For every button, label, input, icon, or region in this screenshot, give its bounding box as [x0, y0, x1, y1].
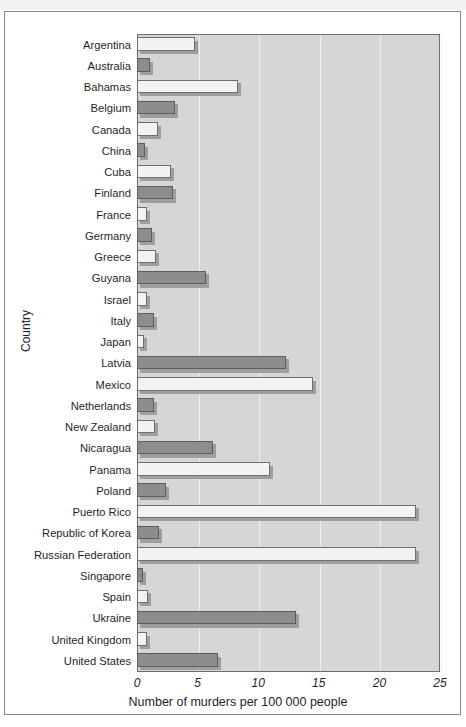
bar[interactable] — [137, 271, 206, 284]
bar-track — [137, 438, 440, 459]
bar[interactable] — [137, 653, 218, 666]
category-label: Australia — [87, 60, 131, 72]
category-label: Bahamas — [84, 81, 131, 93]
bar-row: Israel — [5, 289, 466, 310]
category-label: Poland — [96, 485, 131, 497]
bar-track — [137, 310, 440, 331]
category-label: Russian Federation — [34, 549, 131, 561]
category-label: Republic of Korea — [42, 527, 131, 539]
bar-row: Finland — [5, 183, 466, 204]
bar[interactable] — [137, 611, 296, 624]
bar-row: Italy — [5, 310, 466, 331]
bar-track — [137, 565, 440, 586]
bar[interactable] — [137, 356, 286, 369]
bar-row: Puerto Rico — [5, 502, 466, 523]
bar-track — [137, 395, 440, 416]
bar-track — [137, 55, 440, 76]
bar-track — [137, 629, 440, 650]
bar[interactable] — [137, 37, 195, 50]
bar-rows: ArgentinaAustraliaBahamasBelgiumCanadaCh… — [5, 34, 466, 672]
bar-track — [137, 502, 440, 523]
bar-row: Japan — [5, 332, 466, 353]
bar-row: Belgium — [5, 98, 466, 119]
bar-row: Poland — [5, 480, 466, 501]
category-label: Ukraine — [92, 612, 131, 624]
bar[interactable] — [137, 228, 152, 241]
bar[interactable] — [137, 632, 147, 645]
bar-row: France — [5, 204, 466, 225]
x-tick-label: 15 — [312, 676, 325, 690]
category-label: Canada — [92, 124, 131, 136]
bar-track — [137, 225, 440, 246]
bar-track — [137, 332, 440, 353]
bar-row: Canada — [5, 119, 466, 140]
bar-row: Singapore — [5, 565, 466, 586]
bar[interactable] — [137, 420, 155, 433]
bar-track — [137, 34, 440, 55]
category-label: Latvia — [101, 357, 131, 369]
bar-track — [137, 650, 440, 671]
bar[interactable] — [137, 143, 145, 156]
bar[interactable] — [137, 101, 175, 114]
bar-row: Guyana — [5, 268, 466, 289]
category-label: Israel — [104, 294, 131, 306]
bar-track — [137, 523, 440, 544]
bar[interactable] — [137, 250, 156, 263]
bar[interactable] — [137, 122, 158, 135]
bar[interactable] — [137, 483, 166, 496]
category-label: Guyana — [92, 272, 131, 284]
category-label: China — [102, 145, 131, 157]
bar[interactable] — [137, 292, 147, 305]
bar-row: Greece — [5, 247, 466, 268]
category-label: Panama — [89, 464, 131, 476]
bar-track — [137, 608, 440, 629]
category-label: Spain — [102, 591, 131, 603]
bar[interactable] — [137, 462, 270, 475]
bar[interactable] — [137, 441, 213, 454]
x-axis-label: Number of murders per 100 000 people — [5, 695, 466, 709]
bar[interactable] — [137, 590, 148, 603]
bar[interactable] — [137, 568, 143, 581]
bar-row: Panama — [5, 459, 466, 480]
bar[interactable] — [137, 398, 154, 411]
x-tick-label: 5 — [194, 676, 201, 690]
bar[interactable] — [137, 313, 154, 326]
category-label: Argentina — [83, 39, 131, 51]
category-label: Singapore — [80, 570, 131, 582]
bar[interactable] — [137, 58, 150, 71]
category-label: Italy — [110, 315, 131, 327]
category-label: Japan — [101, 336, 131, 348]
bar-track — [137, 98, 440, 119]
bar-row: Latvia — [5, 353, 466, 374]
category-label: Cuba — [104, 166, 131, 178]
category-label: Greece — [94, 251, 131, 263]
bar[interactable] — [137, 207, 147, 220]
bar[interactable] — [137, 186, 173, 199]
bar-track — [137, 289, 440, 310]
bar[interactable] — [137, 165, 171, 178]
category-label: Nicaragua — [80, 442, 131, 454]
category-label: Germany — [85, 230, 131, 242]
bar[interactable] — [137, 547, 416, 560]
bar-row: Ukraine — [5, 608, 466, 629]
bar[interactable] — [137, 526, 159, 539]
bar-track — [137, 417, 440, 438]
y-axis-label: Country — [19, 310, 33, 352]
bar-track — [137, 77, 440, 98]
bar[interactable] — [137, 335, 144, 348]
bar[interactable] — [137, 505, 416, 518]
category-label: Belgium — [91, 102, 131, 114]
bar-row: Russian Federation — [5, 544, 466, 565]
category-label: Finland — [94, 187, 131, 199]
bar-row: Spain — [5, 587, 466, 608]
bar-track — [137, 204, 440, 225]
bar-track — [137, 268, 440, 289]
bar-track — [137, 247, 440, 268]
bar-track — [137, 480, 440, 501]
figure-container: ArgentinaAustraliaBahamasBelgiumCanadaCh… — [0, 0, 466, 727]
bar-track — [137, 119, 440, 140]
bar[interactable] — [137, 80, 238, 93]
bar-row: Mexico — [5, 374, 466, 395]
bar[interactable] — [137, 377, 313, 390]
bar-row: United Kingdom — [5, 629, 466, 650]
